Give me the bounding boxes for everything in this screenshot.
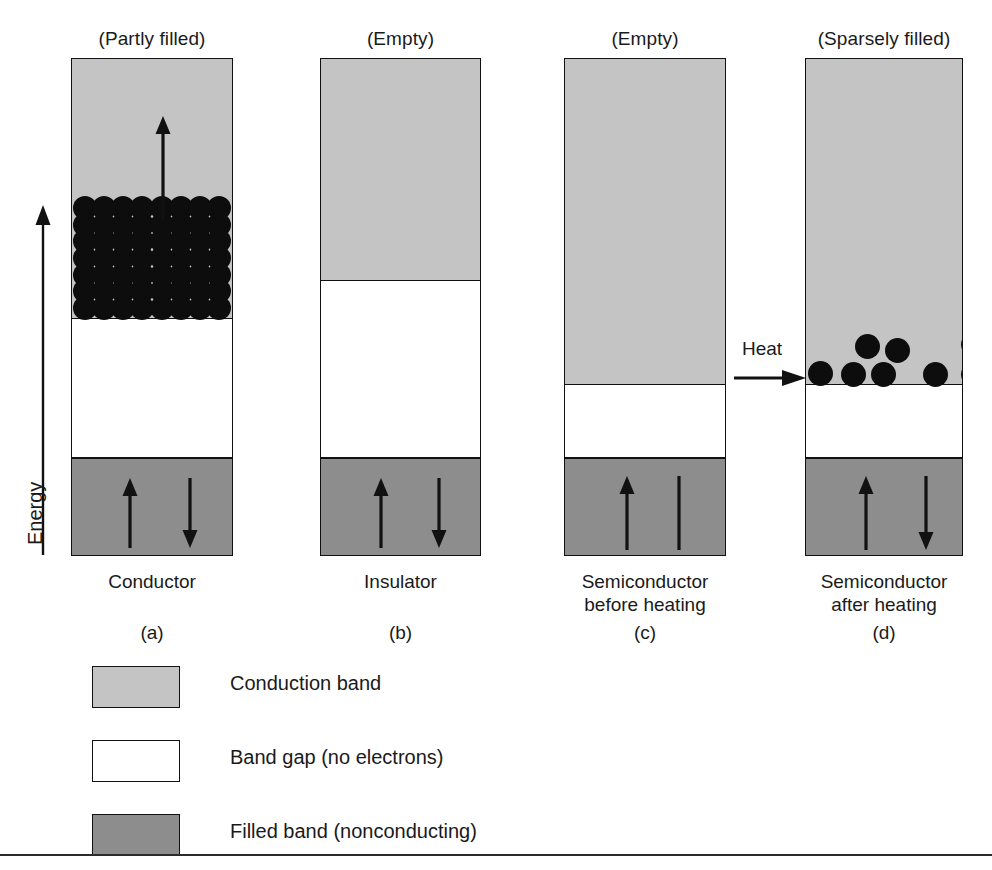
column-top-label-conductor: (Partly filled): [11, 28, 293, 50]
legend-swatch-band-gap: [92, 740, 180, 782]
band-column-conductor: [71, 58, 233, 558]
band-conduction: [320, 58, 481, 282]
heat-label: Heat: [742, 338, 782, 360]
conduction-up-arrow-icon: [152, 116, 174, 224]
legend-label-filled-band: Filled band (nonconducting): [230, 820, 477, 843]
electron-dot: [808, 361, 833, 386]
band-gap: [564, 384, 726, 458]
band-column-semiconductor-before: [564, 58, 726, 558]
electron-cloud: [805, 58, 963, 558]
column-top-label-semiconductor-before: (Empty): [504, 28, 786, 50]
column-bottom-label-insulator: Insulator: [260, 570, 541, 593]
band-conduction: [564, 58, 726, 386]
electron-dot: [855, 334, 880, 359]
filled-down-arrow-icon: [179, 478, 201, 552]
band-gap: [320, 280, 481, 458]
panel-letter-conductor: (a): [11, 622, 293, 644]
column-top-label-insulator: (Empty): [260, 28, 541, 50]
panel-letter-semiconductor-before: (c): [504, 622, 786, 644]
band-column-insulator: [320, 58, 481, 558]
legend-swatch-conduction-band: [92, 666, 180, 708]
electron-dot: [207, 296, 231, 320]
band-theory-diagram: Energy Heat (Partly filled)Conductor(a)(…: [0, 0, 992, 870]
legend-label-band-gap: Band gap (no electrons): [230, 746, 443, 769]
heat-arrow-icon: [734, 368, 806, 388]
column-top-label-semiconductor-after: (Sparsely filled): [745, 28, 992, 50]
filled-up-arrow-icon: [119, 478, 141, 552]
panel-letter-insulator: (b): [260, 622, 541, 644]
electron-dot: [885, 338, 910, 363]
electron-dot: [961, 362, 964, 387]
band-filled: [320, 458, 481, 556]
band-filled: [564, 458, 726, 556]
electron-dot: [923, 362, 948, 387]
electron-dot: [871, 362, 896, 387]
filled-up-arrow-icon: [370, 478, 392, 552]
filled-line-icon: [668, 476, 690, 554]
filled-up-arrow-icon: [616, 476, 638, 554]
band-column-semiconductor-after: [805, 58, 963, 558]
energy-axis-label: Energy: [24, 482, 47, 545]
panel-letter-semiconductor-after: (d): [745, 622, 992, 644]
filled-up-arrow-icon: [855, 476, 877, 554]
figure-bottom-rule: [0, 854, 992, 856]
column-bottom-label-semiconductor-before: Semiconductorbefore heating: [504, 570, 786, 616]
legend-label-conduction-band: Conduction band: [230, 672, 381, 695]
filled-down-arrow-icon: [915, 476, 937, 554]
legend-swatch-filled-band: [92, 814, 180, 856]
filled-down-arrow-icon: [428, 478, 450, 552]
electron-dot: [841, 362, 866, 387]
column-bottom-label-conductor: Conductor: [11, 570, 293, 593]
column-bottom-label-semiconductor-after: Semiconductorafter heating: [745, 570, 992, 616]
electron-dot: [961, 332, 964, 357]
